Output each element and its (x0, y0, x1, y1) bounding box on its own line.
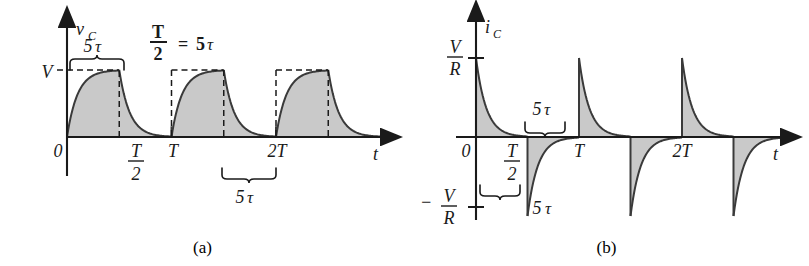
x-axis-label-a: t (373, 144, 379, 164)
brace-lower-5tau-b: 5 τ (480, 185, 552, 218)
svg-text:5: 5 (84, 36, 93, 56)
svg-text:R: R (449, 59, 461, 79)
caption-a: (a) (0, 238, 405, 258)
chart-b-svg: i C t V R − V R 0 T 2 T (404, 0, 809, 266)
y-axis-label-b: i (485, 17, 490, 37)
y-tick-label-V: V (42, 62, 55, 82)
svg-text:T: T (152, 22, 164, 42)
svg-text:V: V (450, 37, 463, 57)
svg-text:=: = (178, 34, 188, 54)
y-tick-label-V-over-R: V R (447, 37, 463, 79)
chart-panel-a: v C t V 0 T 2 T 2T T 2 = 5 τ (0, 0, 405, 266)
x-tick-label-2T-b: 2T (672, 141, 693, 161)
svg-text:R: R (443, 208, 455, 228)
svg-text:5: 5 (533, 198, 542, 218)
svg-text:τ: τ (207, 35, 214, 54)
x-tick-label-T-over-2-b: T 2 (504, 141, 520, 184)
svg-text:2: 2 (154, 44, 163, 64)
svg-text:5: 5 (196, 34, 205, 54)
svg-text:T: T (131, 141, 143, 161)
svg-text:5: 5 (236, 187, 245, 207)
y-tick-label-negative-V-over-R: − V R (420, 186, 457, 228)
svg-text:2: 2 (508, 164, 517, 184)
brace-top-5tau-a: 5 τ (70, 36, 124, 70)
svg-text:T: T (507, 141, 519, 161)
svg-text:−: − (420, 192, 432, 212)
x-tick-label-T-b: T (574, 141, 586, 161)
caption-b: (b) (404, 238, 809, 258)
chart-panel-b: i C t V R − V R 0 T 2 T (404, 0, 809, 266)
x-tick-label-0-b: 0 (462, 141, 471, 161)
svg-text:2: 2 (132, 164, 141, 184)
svg-text:τ: τ (545, 199, 552, 218)
annotation-half-period-equals-5tau: T 2 = 5 τ (150, 22, 214, 64)
svg-text:τ: τ (95, 37, 102, 56)
brace-upper-5tau-b: 5 τ (525, 99, 565, 137)
x-tick-label-2T-a: 2T (267, 141, 288, 161)
x-tick-label-T-a: T (168, 141, 180, 161)
x-tick-label-T-over-2-a: T 2 (128, 141, 144, 184)
figure-container: v C t V 0 T 2 T 2T T 2 = 5 τ (0, 0, 809, 266)
x-tick-label-0-a: 0 (54, 141, 63, 161)
y-axis-label-sub-b: C (493, 27, 502, 41)
x-axis-label-b: t (773, 144, 779, 164)
svg-text:τ: τ (247, 188, 254, 207)
svg-text:τ: τ (544, 100, 551, 119)
chart-a-svg: v C t V 0 T 2 T 2T T 2 = 5 τ (0, 0, 405, 266)
chart-a-plot-area (57, 70, 381, 137)
svg-text:5: 5 (533, 99, 542, 119)
brace-bottom-5tau-a: 5 τ (222, 168, 276, 207)
svg-text:V: V (444, 186, 457, 206)
